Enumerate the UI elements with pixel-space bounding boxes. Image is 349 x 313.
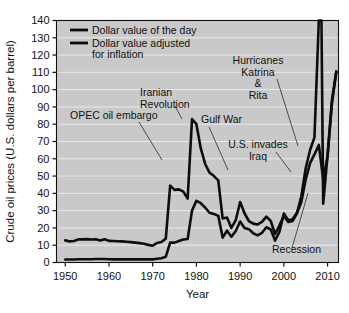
y-axis-tick-label: 80 [37,118,49,130]
y-axis-tick-label: 50 [37,170,49,182]
x-axis-tick-label: 2010 [315,270,339,282]
annotation-label-4: U.S. invades [228,138,288,150]
annotation-label-4: Iraq [249,150,267,162]
annotation-label-3: Rita [249,89,268,101]
annotation-label-1: Revolution [140,98,190,110]
annotation-label-3: & [254,77,261,89]
y-axis-tick-label: 130 [31,32,49,44]
annotation-label-0: OPEC oil embargo [70,109,158,121]
annotation-label-5: Recession [272,243,321,255]
chart-figure: 0102030405060708090100110120130140195019… [0,0,349,313]
x-axis-tick-label: 1990 [228,270,252,282]
y-axis-tick-label: 10 [37,239,49,251]
y-axis-tick-label: 140 [31,14,49,26]
x-axis-tick-label: 1970 [140,270,164,282]
y-axis-tick-label: 100 [31,83,49,95]
annotation-label-2: Gulf War [201,113,243,125]
annotation-label-1: Iranian [140,86,172,98]
y-axis-tick-label: 110 [32,66,50,78]
annotation-label-3: Katrina [241,66,274,78]
y-axis-tick-label: 90 [37,101,49,113]
y-axis-title: Crude oil prices (U.S. dollars per barre… [4,40,16,243]
x-axis-tick-label: 1960 [97,270,121,282]
y-axis-tick-label: 20 [37,222,49,234]
legend-label-0: Dollar value of the day [92,24,197,36]
annotation-label-3: Hurricanes [233,54,284,66]
y-axis-tick-label: 0 [43,256,49,268]
x-axis-tick-label: 1980 [184,270,208,282]
y-axis-tick-label: 30 [37,204,49,216]
y-axis-tick-label: 40 [37,187,49,199]
y-axis-tick-label: 60 [37,153,49,165]
y-axis-tick-label: 120 [31,49,49,61]
y-axis-tick-label: 70 [37,135,49,147]
chart-canvas: 0102030405060708090100110120130140195019… [0,0,349,313]
legend-label-1: for inflation [92,48,144,60]
x-axis-tick-label: 1950 [53,270,77,282]
x-axis-title: Year [186,288,209,300]
x-axis-tick-label: 2000 [272,270,296,282]
